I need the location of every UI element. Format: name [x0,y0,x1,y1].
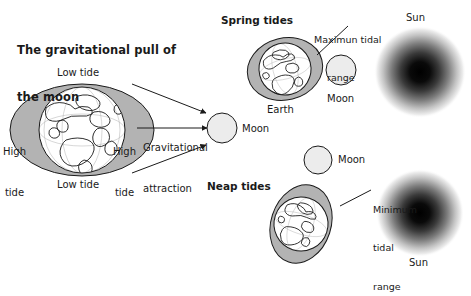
spring-tides-heading: Spring tides [221,13,293,27]
central-moon [207,113,237,143]
maximum-range-line-1: Maximun tidal [314,34,381,47]
sun-top [374,26,466,118]
neap-moon [304,146,332,174]
minimum-tidal-range-label: Minimum tidal range [373,178,417,296]
spring-earth-label: Earth [267,103,294,117]
attraction-line-2: attraction [143,182,208,196]
central-moon-label: Moon [242,122,269,136]
high-tide-left-line-2: tide [3,186,26,200]
high-tide-left-label: High tide [3,118,26,226]
neap-range-leader [340,190,371,206]
neap-tides-heading: Neap tides [207,179,271,193]
gravitational-attraction-label: Gravitational attraction [143,114,208,222]
minimum-range-line-1: Minimum [373,204,417,217]
sun-bottom-label: Sun [409,256,428,270]
minimum-range-line-3: range [373,281,417,294]
neap-earth-group [260,177,342,272]
attraction-line-1: Gravitational [143,141,208,155]
maximum-range-line-2: range [327,72,381,85]
high-tide-right-label: High tide [113,118,136,226]
title-line-2: the moon [17,90,176,106]
low-tide-bottom-label: Low tide [57,178,99,192]
neap-moon-label: Moon [338,153,365,167]
high-tide-right-line-1: High [113,145,136,159]
high-tide-left-line-1: High [3,145,26,159]
low-tide-top-label: Low tide [57,66,99,80]
sun-top-label: Sun [406,11,425,25]
title-line-1: The gravitational pull of [17,43,176,59]
spring-moon-label: Moon [327,92,354,106]
high-tide-right-line-2: tide [113,186,136,200]
minimum-range-line-2: tidal [373,242,417,255]
